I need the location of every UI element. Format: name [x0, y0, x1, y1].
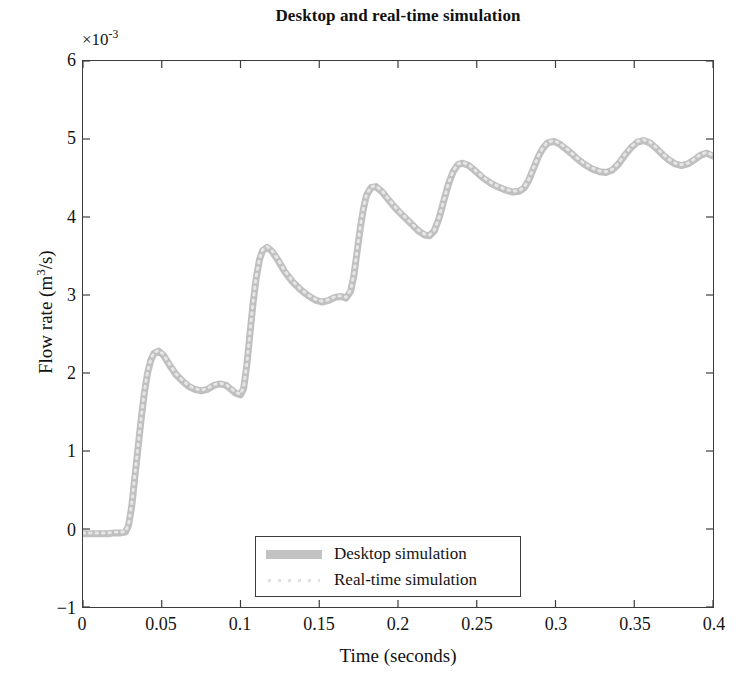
legend-item-real-time-simulation[interactable]: Real-time simulation — [256, 567, 520, 593]
plot-area — [82, 60, 714, 608]
y-multiplier-exponent: -3 — [109, 28, 119, 41]
legend-swatch-desktop-simulation — [266, 550, 322, 559]
chart-title: Desktop and real-time simulation — [82, 6, 714, 26]
y-axis-title: Flow rate (m3/s) — [33, 62, 57, 562]
y-axis-multiplier-label: ×10-3 — [82, 28, 118, 50]
axis-ticks — [83, 61, 713, 607]
x-tick-label: 0.4 — [703, 614, 726, 635]
series-line-desktop-simulation — [83, 141, 713, 534]
data-series-layer — [83, 140, 713, 534]
x-tick-label: 0.2 — [387, 614, 410, 635]
x-tick-label: 0.05 — [145, 614, 177, 635]
x-axis-tick-labels: 00.050.10.150.20.250.30.350.4 — [82, 614, 714, 642]
x-tick-label: 0.3 — [545, 614, 568, 635]
x-axis-title: Time (seconds) — [82, 645, 714, 667]
y-tick-label: −1 — [30, 598, 76, 619]
series-line-real-time-simulation — [83, 140, 713, 533]
legend-label-real-time-simulation: Real-time simulation — [334, 570, 477, 590]
x-tick-label: 0.15 — [303, 614, 335, 635]
legend-swatch-real-time-simulation — [266, 576, 322, 585]
legend: Desktop simulation Real-time simulation — [255, 536, 521, 597]
plot-canvas — [83, 61, 713, 607]
legend-item-desktop-simulation[interactable]: Desktop simulation — [256, 541, 520, 567]
x-tick-label: 0.25 — [461, 614, 493, 635]
x-tick-label: 0.35 — [619, 614, 651, 635]
x-tick-label: 0 — [78, 614, 87, 635]
legend-label-desktop-simulation: Desktop simulation — [334, 544, 467, 564]
y-axis-title-exponent: 3 — [33, 269, 48, 275]
y-multiplier-base: ×10 — [82, 30, 109, 49]
x-tick-label: 0.1 — [229, 614, 252, 635]
figure-chart: Desktop and real-time simulation ×10-3 −… — [0, 0, 747, 681]
